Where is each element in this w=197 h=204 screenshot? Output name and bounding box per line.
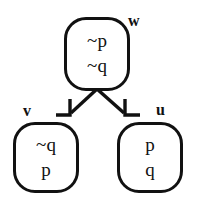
world-node-w[interactable]: ~p ~q — [64, 17, 130, 91]
arrowhead-v-icon — [56, 99, 70, 115]
world-u-proposition-2: q — [145, 160, 155, 181]
world-v-proposition-2: p — [41, 160, 51, 181]
world-w-proposition-1: ~p — [87, 31, 107, 52]
world-u-proposition-1: p — [145, 135, 155, 156]
world-node-v[interactable]: ~q p — [13, 122, 79, 193]
world-w-proposition-2: ~q — [87, 56, 107, 77]
world-node-u[interactable]: p q — [117, 122, 183, 193]
edge-w-to-v — [71, 89, 97, 113]
world-label-v: v — [23, 103, 31, 119]
arrowhead-u-icon — [125, 99, 140, 115]
world-v-proposition-1: ~q — [36, 135, 56, 156]
world-label-u: u — [156, 102, 165, 118]
world-label-w: w — [128, 13, 140, 29]
edge-w-to-u — [97, 89, 124, 113]
kripke-diagram: ~p ~q w ~q p v p q u — [0, 0, 197, 204]
